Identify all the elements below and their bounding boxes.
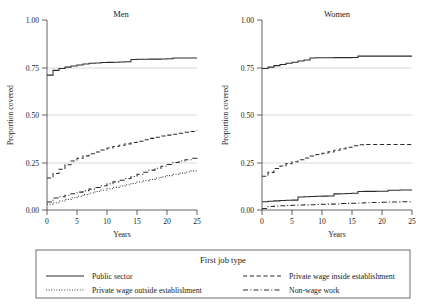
x-ticklabel-3: 15 — [133, 217, 141, 226]
x-ticklabel-2: 10 — [318, 217, 326, 226]
y-ticklabel-2: 0.50 — [241, 111, 254, 120]
legend-label-public-sector: Public sector — [92, 272, 133, 281]
y-ticklabel-0: 0.00 — [241, 206, 254, 215]
x-axis-title: Years — [113, 230, 130, 239]
y-ticklabel-0: 0.00 — [26, 206, 39, 215]
y-axis-title: Proportion covered — [6, 85, 15, 145]
x-ticklabel-2: 10 — [103, 217, 111, 226]
x-ticklabel-4: 20 — [378, 217, 386, 226]
x-ticklabel-5: 25 — [408, 217, 416, 226]
y-ticklabel-4: 1.00 — [26, 16, 39, 25]
legend-label-private-inside: Private wage inside establishment — [289, 272, 396, 281]
x-axis-title: Years — [328, 230, 345, 239]
y-ticklabel-4: 1.00 — [241, 16, 254, 25]
panel-title-women: Women — [324, 9, 351, 19]
x-ticklabel-0: 0 — [260, 217, 264, 226]
x-ticklabel-1: 5 — [290, 217, 294, 226]
panel-title-men: Men — [113, 9, 129, 19]
y-ticklabel-2: 0.50 — [26, 111, 39, 120]
legend-label-non-wage: Non-wage work — [289, 286, 340, 295]
y-ticklabel-1: 0.25 — [241, 159, 254, 168]
y-ticklabel-3: 0.75 — [241, 64, 254, 73]
y-axis-title: Proportion covered — [221, 85, 230, 145]
legend-title: First job type — [200, 255, 246, 265]
x-ticklabel-3: 15 — [348, 217, 356, 226]
x-ticklabel-4: 20 — [163, 217, 171, 226]
x-ticklabel-1: 5 — [75, 217, 79, 226]
y-ticklabel-3: 0.75 — [26, 64, 39, 73]
figure-root: Men 0.00 0.25 0.50 0.75 1.00 Proportion … — [0, 0, 430, 305]
x-ticklabel-0: 0 — [45, 217, 49, 226]
y-ticklabel-1: 0.25 — [26, 159, 39, 168]
legend: First job type Public sector Private wag… — [36, 250, 410, 298]
x-ticklabel-5: 25 — [193, 217, 201, 226]
chart-svg: Men 0.00 0.25 0.50 0.75 1.00 Proportion … — [0, 0, 430, 305]
legend-label-private-outside: Private wage outside establishment — [92, 286, 203, 295]
